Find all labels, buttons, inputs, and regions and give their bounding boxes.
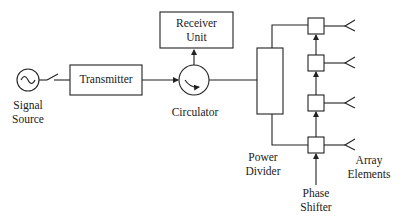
phase-shifter-1	[308, 18, 324, 34]
array-elements-label-line1: Array	[338, 154, 400, 167]
transmitter-label: Transmitter	[74, 73, 138, 86]
array-elements-label-line2: Elements	[338, 168, 400, 181]
receiver-label-line1: Receiver	[160, 17, 233, 30]
power-divider-label-line2: Divider	[238, 165, 288, 178]
signal-source-label-line1: Signal	[5, 99, 51, 112]
circulator-label: Circulator	[160, 106, 230, 119]
antenna-icons	[324, 20, 355, 150]
phase-shifter-2	[308, 55, 324, 71]
receiver-label-line2: Unit	[160, 31, 233, 44]
phase-shifter-3	[308, 95, 324, 111]
power-divider-block	[257, 48, 283, 114]
switch-icon	[39, 74, 70, 80]
phase-shifter-label-line1: Phase	[292, 187, 340, 200]
signal-source-label-line2: Source	[5, 113, 51, 126]
circulator-icon	[179, 65, 209, 95]
signal-source-icon	[17, 69, 39, 91]
power-divider-label-line1: Power	[238, 151, 288, 164]
phase-shifter-label-line2: Shifter	[292, 201, 340, 214]
phase-shifter-4	[308, 137, 324, 153]
